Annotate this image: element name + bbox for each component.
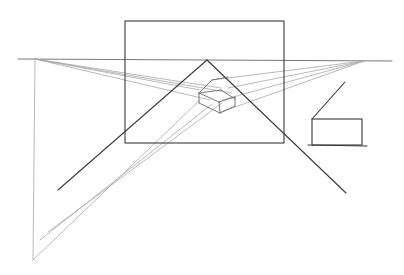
right-vp-ray-3 [221, 61, 364, 112]
box-right-top [219, 97, 235, 102]
horizon-line [18, 59, 392, 61]
right-vp-ray-1 [212, 61, 364, 80]
triangle-right-side [207, 60, 346, 193]
left-vp-ray-3 [35, 59, 221, 88]
bottom-diagonal-guide-b [40, 104, 212, 240]
left-vertical-guide [33, 59, 35, 260]
small-box [312, 119, 362, 145]
box-top-front-left [199, 90, 221, 93]
box-bottom-right [220, 106, 235, 113]
perspective-drawing [0, 0, 404, 275]
triangle-left-side [58, 60, 207, 190]
guide-lines [33, 59, 367, 260]
left-vp-ray-2 [35, 59, 210, 100]
box-center-edge [219, 102, 220, 113]
small-box-diagonal [312, 82, 345, 119]
box-front-top [199, 93, 219, 102]
